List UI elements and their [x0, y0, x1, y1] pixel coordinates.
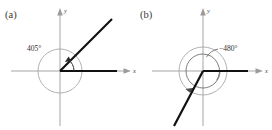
- panel-a-y-axis-arrowhead: [57, 8, 63, 16]
- panel-b-label-leader: [207, 49, 219, 57]
- panel-a-angle-label: 405°: [27, 44, 41, 53]
- panel-a: (a) 405° y x: [5, 7, 136, 126]
- panel-a-caption: (a): [5, 9, 17, 21]
- panel-b-x-axis-label: x: [264, 67, 268, 74]
- angles-standard-position-figure: (a) 405° y x (b) −48: [0, 0, 272, 130]
- panel-b-x-axis-arrowhead: [256, 68, 264, 74]
- panel-b-y-axis-label: y: [206, 7, 210, 14]
- panel-a-x-axis-arrowhead: [124, 68, 132, 74]
- panel-b-angle-label: −480°: [219, 44, 237, 53]
- panel-b-caption: (b): [140, 9, 153, 21]
- panel-a-terminal-side: [60, 19, 112, 71]
- panel-b: (b) −480° y x: [140, 7, 268, 126]
- figure-container: (a) 405° y x (b) −48: [0, 0, 272, 130]
- panel-b-y-axis-arrowhead: [200, 8, 206, 16]
- panel-a-y-axis-label: y: [63, 7, 67, 14]
- panel-a-x-axis-label: x: [132, 67, 136, 74]
